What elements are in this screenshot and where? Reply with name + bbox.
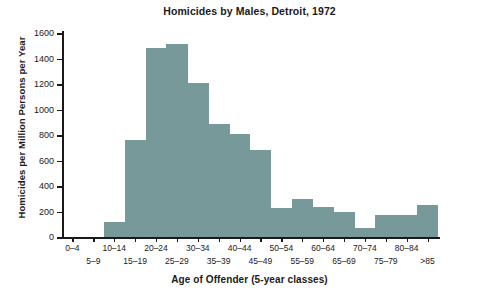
y-tick-mark [57,186,62,188]
x-tick-label: 65–69 [332,256,356,266]
y-tick-mark [57,161,62,163]
bar [313,207,334,237]
x-tick-mark [302,238,303,242]
x-tick-label: 20–24 [144,243,168,253]
y-tick-label: 1200 [34,79,54,89]
x-tick-mark [198,238,199,242]
x-tick-mark [344,238,345,242]
x-tick-label: 75–79 [374,256,398,266]
x-tick-mark [93,238,94,242]
y-tick-mark [57,135,62,137]
x-tick-mark [219,238,220,242]
x-tick-label: 30–34 [186,243,210,253]
y-tick-mark [57,84,62,86]
x-tick-label: 25–29 [165,256,189,266]
x-tick-label: 45–49 [249,256,273,266]
x-tick-mark [135,238,136,242]
x-tick-mark [114,238,115,242]
x-tick-mark [260,238,261,242]
y-tick-mark [57,212,62,214]
y-tick-mark [57,59,62,61]
x-tick-label: 70–74 [353,243,377,253]
bar [396,215,417,237]
y-axis-title: Homicides per Million Persons per Year [16,23,27,233]
x-tick-mark [72,238,73,242]
chart-title: Homicides by Males, Detroit, 1972 [0,5,499,17]
bar [292,199,313,237]
bar [187,83,208,237]
x-tick-label: 10–14 [102,243,126,253]
x-tick-label: 5–9 [86,256,100,266]
x-tick-label: 35–39 [207,256,231,266]
x-tick-mark [428,238,429,242]
bar [271,208,292,237]
y-tick-label: 800 [39,130,54,140]
bar [354,228,375,237]
plot-area: 02004006008001000120014001600 [62,33,438,237]
x-tick-label: 55–59 [290,256,314,266]
x-tick-mark [386,238,387,242]
x-axis-title: Age of Offender (5-year classes) [0,274,499,285]
bar [250,150,271,237]
bar [417,205,438,237]
x-tick-label: 40–44 [228,243,252,253]
bar [166,44,187,237]
bar [125,140,146,237]
bar [334,212,355,237]
x-tick-label: 15–19 [123,256,147,266]
x-tick-mark [365,238,366,242]
x-tick-mark [177,238,178,242]
y-tick-label: 400 [39,181,54,191]
y-tick-label: 200 [39,207,54,217]
chart-figure: Homicides by Males, Detroit, 1972 Homici… [0,0,499,296]
x-tick-label: 50–54 [270,243,294,253]
x-tick-label: 80–84 [395,243,419,253]
x-axis-line [62,237,440,239]
y-tick-mark [57,237,62,239]
x-tick-label: 0–4 [65,243,79,253]
y-tick-label: 0 [49,232,54,242]
y-tick-label: 600 [39,156,54,166]
y-tick-label: 1600 [34,28,54,38]
y-tick-mark [57,110,62,112]
x-tick-mark [156,238,157,242]
bar [146,48,167,237]
x-tick-label: 60–64 [311,243,335,253]
bar [229,134,250,237]
y-tick-label: 1000 [34,105,54,115]
bar [208,124,229,237]
y-tick-mark [57,33,62,35]
x-tick-mark [281,238,282,242]
x-tick-mark [407,238,408,242]
bar [104,222,125,237]
bar [375,215,396,237]
y-tick-label: 1400 [34,54,54,64]
x-tick-label: >85 [420,256,434,266]
x-tick-mark [240,238,241,242]
x-tick-mark [323,238,324,242]
